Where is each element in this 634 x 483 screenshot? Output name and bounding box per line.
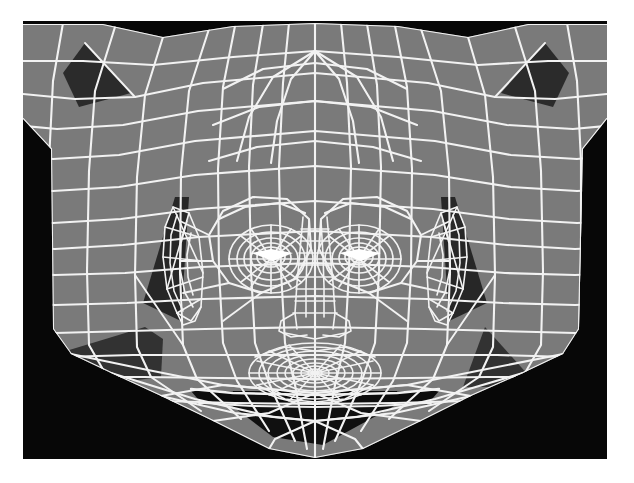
face-wireframe-svg bbox=[23, 21, 607, 459]
mesh-eye-left bbox=[229, 225, 313, 293]
wireframe-render-viewport bbox=[23, 21, 607, 459]
mesh-eye-right bbox=[317, 225, 401, 293]
screenshot-stage bbox=[0, 0, 634, 483]
